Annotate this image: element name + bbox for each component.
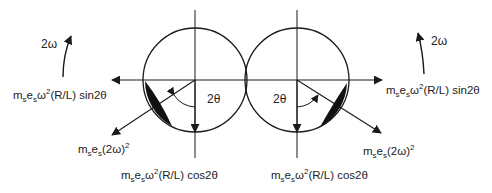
right-rotation-arrow (418, 33, 424, 74)
left-rotation-arrow (63, 36, 71, 77)
left-angle-arc (174, 95, 195, 107)
force-diagram: 2ω 2ω 2θ 2θ msesω2(R/L) sin2θ msesω2(R/L… (0, 0, 492, 193)
diagram-canvas: 2ω 2ω 2θ 2θ msesω2(R/L) sin2θ msesω2(R/L… (0, 0, 492, 193)
right-angle-label: 2θ (273, 92, 287, 106)
left-resultant-label: mses(2ω)2 (78, 141, 130, 158)
right-sin-force-label: msesω2(R/L) sin2θ (386, 82, 480, 99)
right-cos-force-label: msesω2(R/L) cos2θ (271, 167, 368, 184)
right-rotation-label: 2ω (431, 34, 447, 48)
right-angle-arc (297, 95, 318, 107)
left-angle-label: 2θ (207, 92, 221, 106)
left-sin-force-label: msesω2(R/L) sin2θ (13, 87, 107, 104)
left-rotation-label: 2ω (41, 37, 57, 51)
right-resultant-label: mses(2ω)2 (363, 143, 415, 160)
left-cos-force-label: msesω2(R/L) cos2θ (121, 167, 218, 184)
